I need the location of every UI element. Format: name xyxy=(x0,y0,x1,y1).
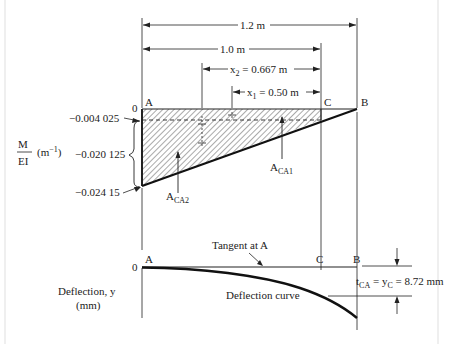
area-ca2-label: ACA2 xyxy=(166,190,189,205)
dimension-total-label: 1.2 m xyxy=(240,19,266,31)
axis-label-ei: EI xyxy=(18,155,29,167)
deflection-axis-label-line2: (mm) xyxy=(76,299,101,312)
deflection-point-B: B xyxy=(353,253,360,265)
deflection-axis-label-line1: Deflection, y xyxy=(58,285,116,297)
deflection-point-A: A xyxy=(145,253,153,265)
moment-point-B: B xyxy=(361,96,368,108)
tca-label: tCA = yC = 8.72 mm xyxy=(356,275,444,290)
value-3-arrowhead xyxy=(134,187,141,192)
deflection-point-C: C xyxy=(316,253,323,265)
axis-label-m: M xyxy=(18,138,28,150)
value-2-brace xyxy=(129,121,140,187)
value-label-3: −0.024 15 xyxy=(75,186,120,198)
deflection-origin-label: 0 xyxy=(132,261,138,273)
dimension-x2-label: x2 = 0.667 m xyxy=(230,63,288,78)
moment-shape xyxy=(142,109,357,186)
hatched-area xyxy=(142,109,321,186)
moment-point-C: C xyxy=(324,96,331,108)
dimension-x1-label: x1 = 0.50 m xyxy=(247,86,299,101)
value-label-1: −0.004 025 xyxy=(69,112,120,124)
moment-origin-label: 0 xyxy=(132,102,138,114)
tangent-label: Tangent at A xyxy=(212,239,268,251)
moment-area-diagram: 1.2 m 1.0 m x2 = 0.667 m x1 = 0.50 m xyxy=(0,0,464,344)
axis-unit-label: (m−1) xyxy=(37,145,62,159)
deflection-curve-label: Deflection curve xyxy=(226,289,300,301)
moment-point-A: A xyxy=(145,96,153,108)
value-label-2: −0.020 125 xyxy=(75,148,126,160)
dimension-ac-label: 1.0 m xyxy=(220,43,246,55)
area-ca1-label: ACA1 xyxy=(270,161,293,176)
